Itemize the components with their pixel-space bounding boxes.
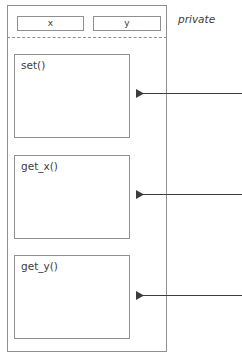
x-attribute[interactable]: x — [17, 16, 84, 31]
attribute-compartment: x y — [8, 6, 166, 37]
class-box: x y set() get_x() get_y() — [7, 5, 167, 352]
diagram-canvas: x y set() get_x() get_y() private — [0, 0, 242, 359]
set-method[interactable]: set() — [14, 54, 130, 138]
get-y-method[interactable]: get_y() — [14, 255, 130, 339]
visibility-divider — [7, 37, 167, 38]
private-label: private — [178, 13, 215, 25]
y-attribute[interactable]: y — [93, 16, 161, 31]
set-method-label: set() — [21, 59, 45, 72]
get-x-method[interactable]: get_x() — [14, 155, 130, 239]
x-attribute-label: x — [48, 18, 53, 28]
get-y-method-label: get_y() — [21, 260, 58, 273]
y-attribute-label: y — [124, 18, 129, 28]
get-x-method-label: get_x() — [21, 160, 58, 173]
